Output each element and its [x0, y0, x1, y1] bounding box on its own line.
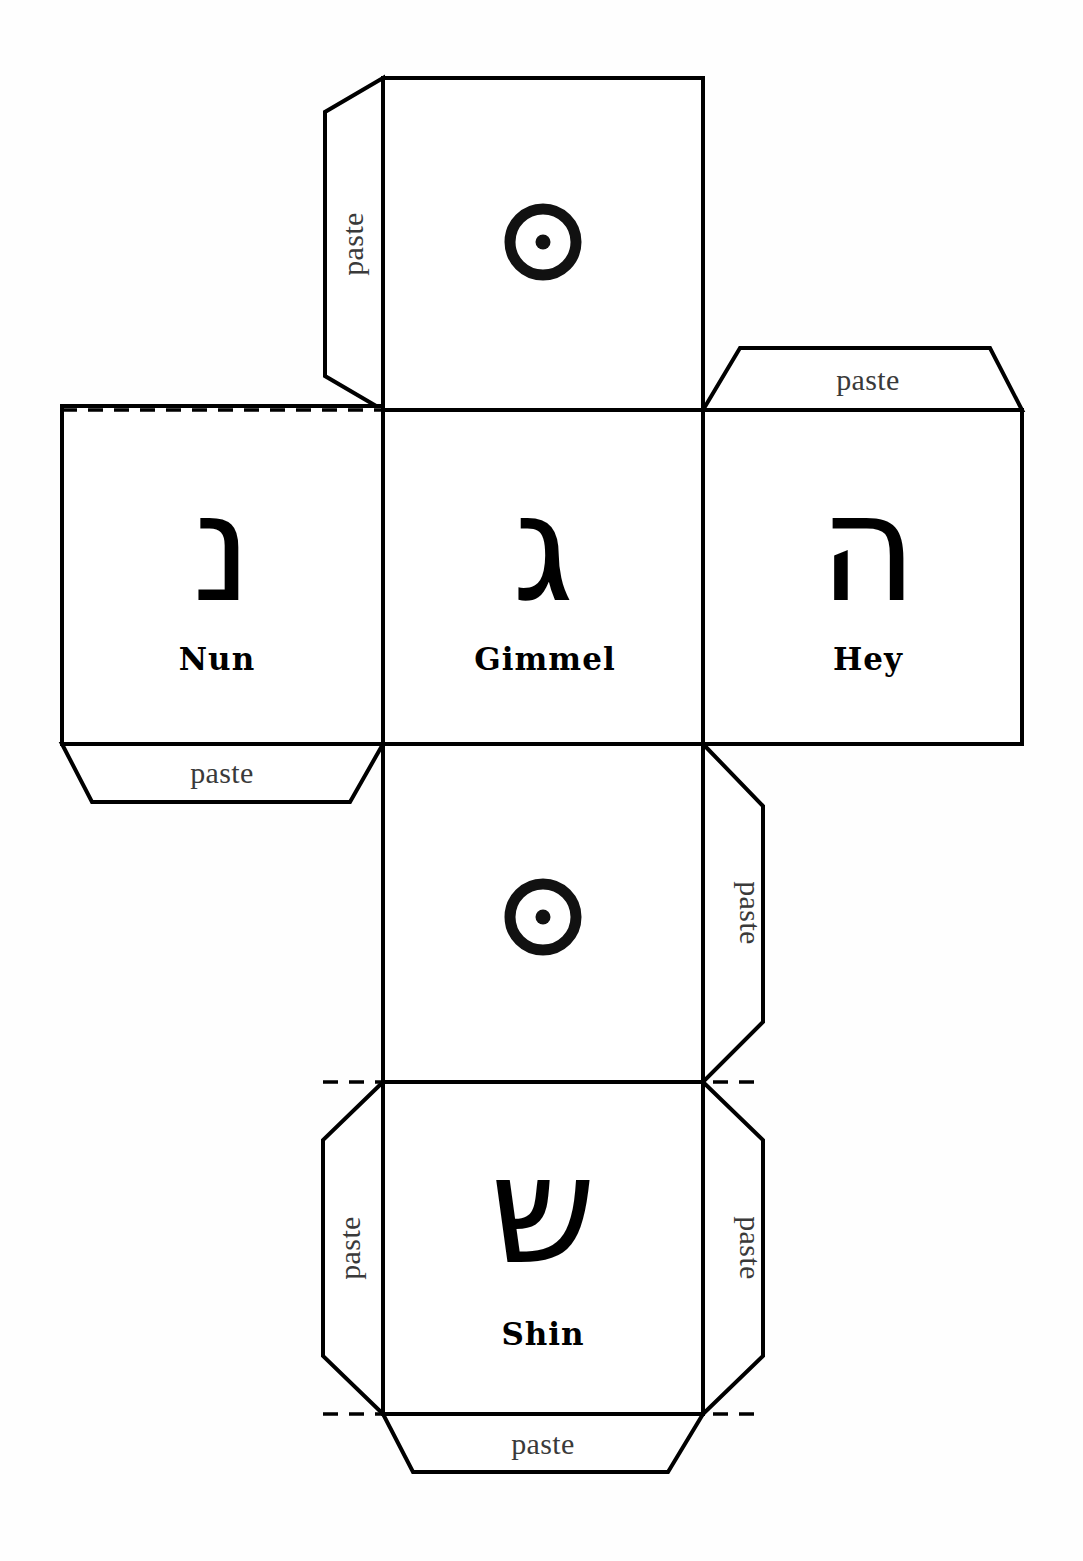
- hebrew-letter-hey: ה: [819, 461, 917, 635]
- hebrew-letter-shin: ש: [490, 1123, 596, 1297]
- face-hey-content: ה Hey: [819, 461, 917, 677]
- tab-label-shin-bottom: paste: [511, 1427, 575, 1460]
- tab-label-hey-top: paste: [836, 363, 900, 396]
- cube-net-sheet: נ Nun ג Gimmel ה Hey ש Shin paste paste …: [0, 0, 1083, 1561]
- face-shin-content: ש Shin: [490, 1123, 596, 1352]
- face-label-nun: Nun: [179, 641, 255, 677]
- cube-net-diagram: נ Nun ג Gimmel ה Hey ש Shin paste paste …: [0, 0, 1083, 1561]
- tab-label-mid-right: paste: [734, 881, 767, 945]
- circle-dot-icon-pip-top: [536, 235, 551, 250]
- tab-label-top-left: paste: [336, 212, 369, 276]
- face-label-shin: Shin: [501, 1316, 584, 1352]
- tab-label-shin-left: paste: [333, 1216, 366, 1280]
- hebrew-letter-gimmel: ג: [512, 461, 574, 635]
- tab-label-nun-bottom: paste: [190, 756, 254, 789]
- tab-label-shin-right: paste: [734, 1216, 767, 1280]
- face-label-hey: Hey: [833, 641, 903, 677]
- circle-dot-icon-pip-lower: [536, 910, 551, 925]
- face-label-gimmel: Gimmel: [474, 641, 615, 677]
- hebrew-letter-nun: נ: [192, 461, 252, 635]
